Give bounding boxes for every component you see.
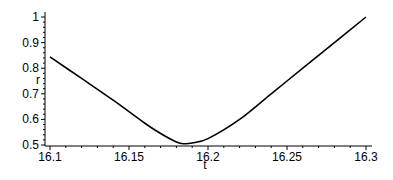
- y-axis-label: r: [36, 73, 40, 87]
- x-tick-label: 16.2: [196, 150, 220, 164]
- x-tick-label: 16.25: [272, 150, 302, 164]
- x-tick-label: 16.3: [354, 150, 378, 164]
- y-tick-label: 0.5: [22, 138, 39, 152]
- y-tick-label: 0.7: [22, 87, 39, 101]
- data-line: [50, 17, 366, 144]
- y-tick-label: 0.9: [22, 36, 39, 50]
- y-tick-label: 0.6: [22, 112, 39, 126]
- x-tick-label: 16.15: [114, 150, 144, 164]
- x-axis: 16.116.1516.216.2516.3: [38, 146, 378, 164]
- x-tick-label: 16.1: [38, 150, 62, 164]
- line-chart: 0.50.60.70.80.91 16.116.1516.216.2516.3 …: [0, 0, 393, 180]
- y-axis: 0.50.60.70.80.91: [22, 10, 45, 152]
- y-tick-label: 1: [32, 10, 39, 24]
